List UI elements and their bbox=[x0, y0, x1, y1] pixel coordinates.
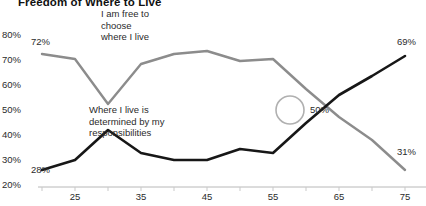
value-label-end-determined: 69% bbox=[397, 36, 416, 47]
value-label-start-determined: 28% bbox=[31, 164, 50, 175]
value-label-crossover: 50% bbox=[310, 104, 329, 115]
series-label-free-to-choose: I am free to choose where I live bbox=[101, 8, 149, 43]
series-label-determined-line-2: determined by my bbox=[89, 116, 165, 128]
value-label-start-free: 72% bbox=[31, 36, 50, 47]
series-label-determined-line-3: responsibilities bbox=[89, 127, 165, 139]
series-label-free-line-1: I am free to bbox=[101, 8, 149, 20]
series-label-determined-line-1: Where I live is bbox=[89, 104, 165, 116]
crossover-circle bbox=[276, 96, 304, 124]
series-label-free-line-2: choose bbox=[101, 20, 149, 32]
value-label-end-free: 31% bbox=[397, 146, 416, 157]
x-axis-ticks bbox=[42, 187, 405, 191]
series-label-determined: Where I live is determined by my respons… bbox=[89, 104, 165, 139]
chart-container: Freedom of Where to Live 80% 70% 60% 50%… bbox=[0, 0, 426, 206]
series-label-free-line-3: where I live bbox=[101, 31, 149, 43]
plot-area bbox=[0, 0, 426, 206]
